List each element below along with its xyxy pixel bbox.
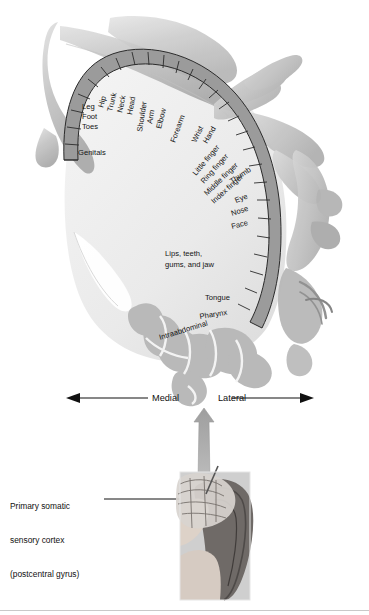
medial-arrowhead — [66, 393, 80, 403]
sensory-homunculus-figure: Genitals Toes Foot Leg Hip Trunk Neck He… — [0, 0, 369, 615]
caption-line-2: sensory cortex — [10, 535, 79, 546]
magnification-arrow — [194, 408, 214, 482]
label-genitals: Genitals — [78, 148, 106, 157]
label-tongue: Tongue — [205, 293, 230, 302]
head-profile-photo — [176, 466, 253, 600]
label-toes: Toes — [82, 122, 98, 131]
bottom-rule — [0, 610, 369, 611]
label-lips-teeth-gums-jaw-line2: gums, and jaw — [165, 260, 214, 269]
caption-line-1: Primary somatic — [10, 501, 79, 512]
label-leg: Leg — [82, 102, 95, 111]
lateral-arrowhead — [300, 393, 314, 403]
foot-shape — [35, 128, 58, 167]
axis-label-medial: Medial — [152, 393, 179, 403]
label-lips-teeth-gums-jaw-line1: Lips, teeth, — [165, 249, 202, 258]
axis-label-lateral: Lateral — [218, 393, 246, 403]
caption-line-3: (postcentral gyrus) — [10, 569, 79, 580]
caption-block: Primary somatic sensory cortex (postcent… — [10, 478, 79, 592]
label-foot: Foot — [82, 112, 98, 121]
